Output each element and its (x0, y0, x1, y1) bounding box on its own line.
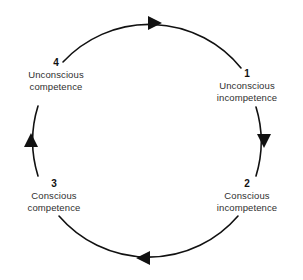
stage-text-3-line1: Conscious (4, 190, 104, 202)
arrow-bottom-icon (136, 251, 150, 265)
stage-text-3-line2: competence (4, 202, 104, 214)
cycle-diagram (0, 0, 303, 280)
arrow-top-icon (148, 16, 162, 30)
stage-text-1-line1: Unconscious (197, 80, 297, 92)
stage-text-2-line2: incompetence (197, 202, 297, 214)
arrow-right-icon (257, 134, 271, 148)
stage-text-2-line1: Conscious (197, 190, 297, 202)
arc-stage2-to-stage3 (59, 216, 238, 257)
stage-text-1-line2: incompetence (197, 92, 297, 104)
stage-label-3: 3 Conscious competence (4, 178, 104, 214)
stage-number-1: 1 (197, 68, 297, 80)
stage-text-4-line1: Unconscious (6, 69, 106, 81)
stage-text-4-line2: competence (6, 81, 106, 93)
arrow-left-icon (24, 133, 38, 147)
stage-number-3: 3 (4, 178, 104, 190)
stage-label-1: 1 Unconscious incompetence (197, 68, 297, 104)
arc-stage1-to-stage2 (256, 107, 261, 176)
stage-number-2: 2 (197, 178, 297, 190)
stage-label-4: 4 Unconscious competence (6, 57, 106, 93)
stage-number-4: 4 (6, 57, 106, 69)
stage-label-2: 2 Conscious incompetence (197, 178, 297, 214)
